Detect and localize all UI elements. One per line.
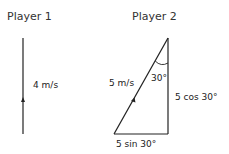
player1-title: Player 1: [7, 11, 52, 22]
vector-diagram: [0, 0, 229, 154]
player1-velocity-label: 4 m/s: [33, 81, 58, 90]
player2-angle-label: 30°: [151, 74, 167, 83]
player2-title: Player 2: [132, 11, 177, 22]
angle-arc: [155, 61, 168, 65]
player2-vertical-label: 5 cos 30°: [175, 93, 218, 102]
player1-arrowhead-icon: [21, 97, 25, 102]
player2-horizontal-label: 5 sin 30°: [116, 140, 156, 149]
player2-hypotenuse-label: 5 m/s: [109, 79, 134, 88]
